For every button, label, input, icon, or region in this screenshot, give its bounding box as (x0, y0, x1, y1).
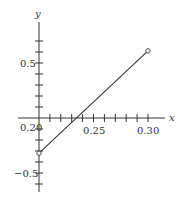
open-endpoint-marker (37, 151, 41, 155)
x-axis-label: x (169, 112, 175, 123)
series-segment (37, 49, 150, 156)
y-tick-label-0.5: 0.5 (20, 58, 36, 69)
y-tick-label-neg0.5: −0.5 (14, 168, 38, 179)
x-tick-label-0.30: 0.30 (137, 125, 159, 136)
open-endpoint-marker (146, 49, 150, 53)
x-tick-label-0.25: 0.25 (83, 125, 105, 136)
data-line (39, 51, 148, 153)
x-tick-label-0.20: 0.20 (20, 122, 42, 133)
y-axis-label: y (34, 8, 41, 19)
chart: y x 0.5 −0.5 0.20 0.25 0.30 (0, 0, 183, 205)
